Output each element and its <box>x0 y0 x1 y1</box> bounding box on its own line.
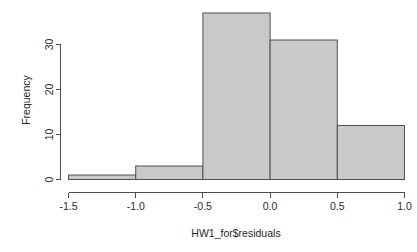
x-axis-title: HW1_for$residuals <box>191 227 280 239</box>
axis-titles-layer: HW1_for$residuals Frequency <box>0 0 417 252</box>
histogram-plot: 0102030 -1.5-1.0-0.50.00.51.0 HW1_for$re… <box>0 0 417 252</box>
y-axis-title: Frequency <box>20 74 32 124</box>
